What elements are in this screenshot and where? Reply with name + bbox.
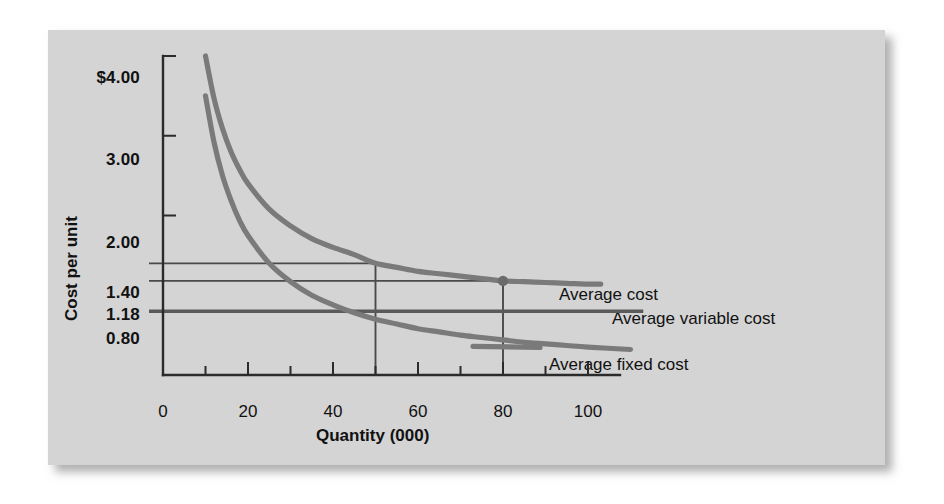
label-leader-lines bbox=[473, 346, 540, 347]
chart-plot-area bbox=[48, 30, 885, 465]
point-marker-80-1-18 bbox=[498, 276, 508, 286]
figure-panel: $4.00 3.00 2.00 1.40 1.18 0.80 Cost per … bbox=[48, 30, 885, 465]
guide-lines bbox=[149, 263, 516, 375]
curve-average-cost bbox=[206, 56, 601, 284]
axes bbox=[163, 56, 620, 375]
leader-average-fixed-cost bbox=[473, 346, 540, 347]
x-axis-ticks bbox=[206, 362, 589, 375]
y-axis-ticks bbox=[163, 56, 176, 216]
